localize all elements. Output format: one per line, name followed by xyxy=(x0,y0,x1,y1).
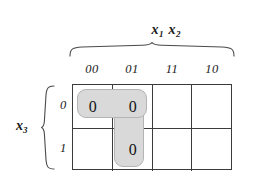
left-curly-brace-icon xyxy=(41,85,55,170)
top-variable-1-subscript: 1 xyxy=(159,29,164,39)
left-variable-name: x xyxy=(16,118,23,133)
kmap-cell-r1-c00[interactable] xyxy=(73,129,112,171)
row-label-0: 0 xyxy=(56,84,70,127)
left-variable-label: x3 xyxy=(16,118,28,135)
left-variable-subscript: 3 xyxy=(23,125,28,135)
top-variable-2-name: x xyxy=(169,22,177,37)
column-label-11: 11 xyxy=(152,60,192,78)
kmap-cell-r1-c01[interactable]: 0 xyxy=(112,129,152,171)
column-labels: 00 01 11 10 xyxy=(72,60,232,78)
kmap-cell-r0-c10[interactable] xyxy=(191,85,231,128)
top-variable-2-subscript: 2 xyxy=(176,29,181,39)
column-label-10: 10 xyxy=(192,60,232,78)
row-label-1: 1 xyxy=(56,127,70,170)
row-labels: 0 1 xyxy=(56,84,70,170)
kmap-cell-r0-c11[interactable] xyxy=(152,85,192,128)
kmap-cell-r1-c10[interactable] xyxy=(191,129,231,171)
top-curly-brace-icon xyxy=(68,42,236,57)
kmap-row-1: 0 xyxy=(73,128,231,171)
top-variable-1-name: x xyxy=(152,22,160,37)
kmap-grid: 0 0 0 xyxy=(72,84,232,170)
kmap-cell-value: 0 xyxy=(89,99,97,115)
kmap-cell-r1-c11[interactable] xyxy=(152,129,192,171)
karnaugh-map-figure: x1x2 00 01 11 10 x3 0 1 0 0 xyxy=(0,0,253,194)
column-label-01: 01 xyxy=(112,60,152,78)
column-label-00: 00 xyxy=(72,60,112,78)
top-variable-label: x1x2 xyxy=(128,22,204,39)
kmap-cell-value: 0 xyxy=(129,142,137,158)
kmap-cell-value: 0 xyxy=(129,99,137,115)
